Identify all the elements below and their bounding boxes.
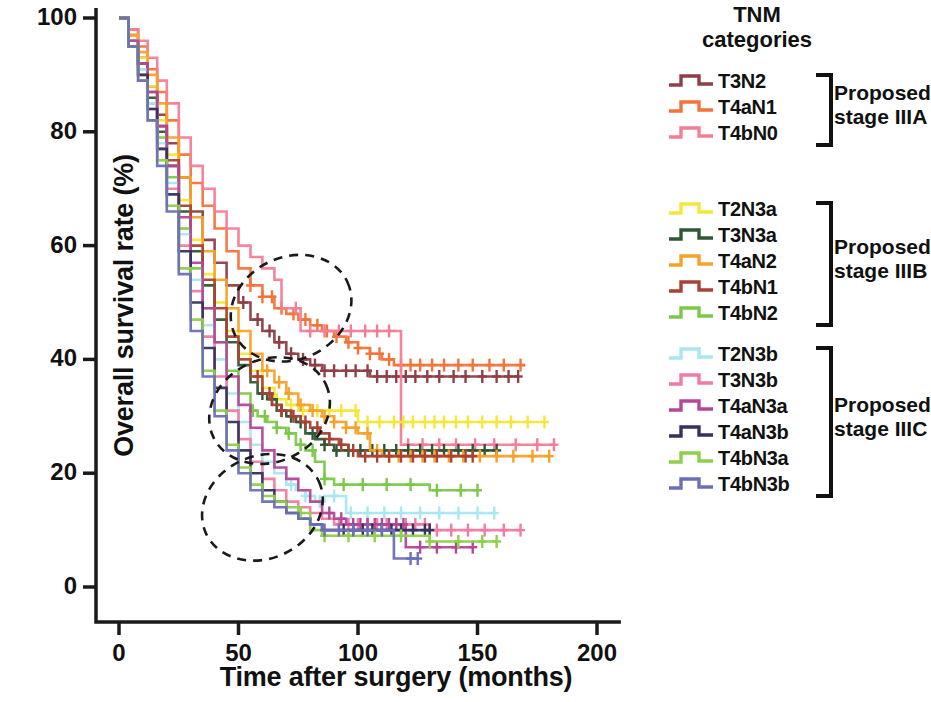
legend-bracket-label: Proposedstage IIIA <box>834 81 931 129</box>
legend-item-label: T4bN0 <box>718 122 778 145</box>
legend-swatch-icon <box>668 344 714 364</box>
legend-swatch-icon <box>668 71 714 91</box>
legend-item-label: T4aN1 <box>718 96 777 119</box>
legend-item-label: T3N2 <box>718 70 766 93</box>
legend-title: TNM categories <box>692 2 822 52</box>
legend-item-label: T3N3a <box>718 224 777 247</box>
legend-swatch-icon <box>668 277 714 297</box>
legend-swatch-icon <box>668 97 714 117</box>
legend-item-t4bn2[interactable]: T4bN2 <box>668 300 898 326</box>
legend-bracket-label-line-2: stage IIIA <box>834 105 931 129</box>
legend-bracket <box>816 346 833 498</box>
legend-bracket <box>816 201 833 327</box>
legend-swatch-icon <box>668 199 714 219</box>
legend-item-label: T4aN2 <box>718 250 777 273</box>
legend-bracket-label-line-1: Proposed <box>834 81 931 105</box>
survival-curve-t4an2 <box>119 18 554 463</box>
y-tick-label: 80 <box>7 117 77 145</box>
survival-curve-t4an3a <box>119 18 477 554</box>
legend-item-t4bn3b[interactable]: T4bN3b <box>668 471 898 497</box>
legend-item-t2n3a[interactable]: T2N3a <box>668 196 898 222</box>
y-tick-label: 0 <box>7 572 77 600</box>
y-tick-label: 20 <box>7 458 77 486</box>
legend-swatch-icon <box>668 251 714 271</box>
legend-swatch-icon <box>668 474 714 494</box>
legend-bracket-label-line-2: stage IIIC <box>834 417 931 441</box>
legend-bracket-label-line-2: stage IIIB <box>834 259 931 283</box>
legend-title-line-1: TNM <box>692 2 822 27</box>
legend-item-label: T4aN3a <box>718 395 787 418</box>
legend-item-label: T2N3a <box>718 198 777 221</box>
legend-item-label: T3N3b <box>718 369 778 392</box>
x-axis-title: Time after surgery (months) <box>96 662 696 693</box>
y-tick-label: 40 <box>7 344 77 372</box>
legend-swatch-icon <box>668 123 714 143</box>
legend-swatch-icon <box>668 422 714 442</box>
legend: TNM categories T3N2T4aN1T4bN0Proposedsta… <box>668 0 898 500</box>
legend-bracket <box>816 73 833 147</box>
legend-group-2: T2N3aT3N3aT4aN2T4bN1T4bN2Proposedstage I… <box>668 196 898 326</box>
legend-bracket-label-line-1: Proposed <box>834 235 931 259</box>
legend-item-t4bn3a[interactable]: T4bN3a <box>668 445 898 471</box>
survival-curves <box>119 18 558 565</box>
legend-bracket-label: Proposedstage IIIC <box>834 393 931 441</box>
legend-item-label: T4bN2 <box>718 302 778 325</box>
y-tick-label: 60 <box>7 231 77 259</box>
legend-item-t2n3b[interactable]: T2N3b <box>668 341 898 367</box>
legend-bracket-label-line-1: Proposed <box>834 393 931 417</box>
legend-group-1: T3N2T4aN1T4bN0Proposedstage IIIA <box>668 68 898 146</box>
legend-title-line-2: categories <box>692 27 822 52</box>
y-axis-title: Overall survival rate (%) <box>109 6 140 606</box>
legend-item-label: T4aN3b <box>718 421 788 444</box>
legend-item-label: T2N3b <box>718 343 778 366</box>
legend-swatch-icon <box>668 396 714 416</box>
legend-swatch-icon <box>668 303 714 323</box>
legend-item-label: T4bN3b <box>718 473 790 496</box>
legend-swatch-icon <box>668 448 714 468</box>
legend-group-3: T2N3bT3N3bT4aN3aT4aN3bT4bN3aT4bN3bPropos… <box>668 341 898 497</box>
legend-item-t3n3b[interactable]: T3N3b <box>668 367 898 393</box>
legend-item-label: T4bN1 <box>718 276 778 299</box>
legend-item-label: T4bN3a <box>718 447 788 470</box>
survival-curve-t3n3a <box>119 18 501 457</box>
survival-curve-t4bn3b <box>119 18 422 565</box>
legend-swatch-icon <box>668 225 714 245</box>
y-tick-label: 100 <box>7 3 77 31</box>
legend-swatch-icon <box>668 370 714 390</box>
legend-bracket-label: Proposedstage IIIB <box>834 235 931 283</box>
